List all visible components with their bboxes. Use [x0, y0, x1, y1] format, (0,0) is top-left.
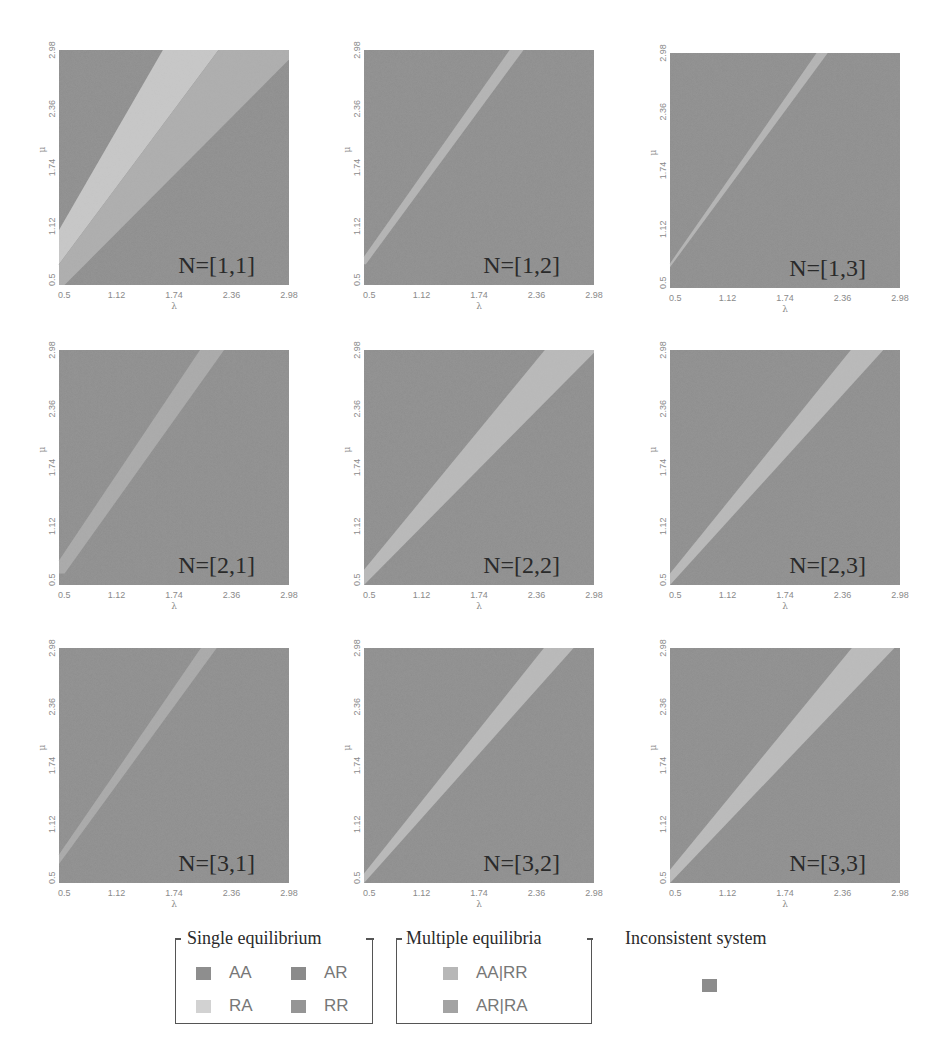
x-tick-label: 0.5: [363, 888, 376, 898]
y-tick-label: 0.5: [658, 573, 668, 586]
x-tick-label: 0.5: [58, 290, 71, 300]
x-tick-label: 1.74: [776, 293, 794, 303]
x-axis-label: λ: [171, 301, 177, 311]
x-tick-label: 1.74: [470, 888, 488, 898]
y-tick-label: 1.12: [47, 217, 57, 235]
legend-label-ar-ra: AR|RA: [476, 996, 528, 1016]
legend-label-ra: RA: [229, 996, 253, 1016]
subplot-title: N=[2,1]: [178, 552, 255, 578]
y-tick-label: 2.36: [352, 400, 362, 418]
x-tick-label: 2.36: [834, 293, 852, 303]
y-axis-label: μ: [342, 146, 352, 152]
legend-item-rr: RR: [291, 996, 349, 1016]
subplot-title: N=[3,1]: [178, 850, 255, 876]
swatch-ar: [291, 967, 306, 980]
y-tick-label: 1.74: [47, 757, 57, 775]
y-tick-label: 0.5: [658, 276, 668, 289]
x-tick-label: 2.98: [280, 888, 298, 898]
x-tick-label: 1.74: [776, 590, 794, 600]
y-tick-label: 0.5: [47, 573, 57, 586]
y-tick-label: 2.98: [352, 639, 362, 657]
y-tick-label: 2.98: [352, 341, 362, 359]
y-tick-label: 2.36: [658, 103, 668, 121]
swatch-inconsistent: [702, 979, 717, 992]
subplot-title: N=[3,3]: [789, 850, 866, 876]
subplot-title: N=[2,2]: [483, 552, 560, 578]
x-tick-label: 2.36: [223, 590, 241, 600]
subplot-4: 0.51.121.742.362.980.51.121.742.362.98λμ…: [19, 340, 319, 630]
y-tick-label: 2.36: [658, 698, 668, 716]
y-tick-label: 2.36: [47, 100, 57, 118]
x-tick-label: 0.5: [363, 290, 376, 300]
subplot-6: 0.51.121.742.362.980.51.121.742.362.98λμ…: [630, 340, 930, 630]
y-tick-label: 0.5: [658, 871, 668, 884]
y-axis-label: μ: [648, 149, 658, 155]
swatch-ar-ra: [443, 1000, 458, 1013]
subplot-title: N=[1,1]: [178, 252, 255, 278]
y-tick-label: 1.74: [658, 757, 668, 775]
x-tick-label: 1.74: [165, 590, 183, 600]
subplot-title: N=[3,2]: [483, 850, 560, 876]
x-tick-label: 0.5: [669, 888, 682, 898]
x-axis-label: λ: [171, 601, 177, 611]
y-tick-label: 1.74: [352, 757, 362, 775]
y-tick-label: 1.12: [352, 517, 362, 535]
x-tick-label: 0.5: [363, 590, 376, 600]
subplot-5: 0.51.121.742.362.980.51.121.742.362.98λμ…: [324, 340, 624, 630]
y-axis-label: μ: [37, 446, 47, 452]
x-tick-label: 0.5: [669, 293, 682, 303]
legend-label-ar: AR: [324, 963, 348, 983]
y-tick-label: 1.12: [352, 815, 362, 833]
y-tick-label: 1.74: [47, 159, 57, 177]
x-axis-label: λ: [476, 301, 482, 311]
x-axis-label: λ: [476, 899, 482, 909]
x-tick-label: 2.98: [891, 590, 909, 600]
swatch-aa-rr: [443, 967, 458, 980]
x-tick-label: 1.12: [413, 590, 431, 600]
y-axis-label: μ: [37, 146, 47, 152]
x-tick-label: 2.98: [891, 888, 909, 898]
y-tick-label: 1.12: [658, 220, 668, 238]
y-tick-label: 1.74: [352, 159, 362, 177]
x-tick-label: 0.5: [58, 590, 71, 600]
x-tick-label: 2.98: [891, 293, 909, 303]
y-tick-label: 0.5: [47, 871, 57, 884]
x-tick-label: 1.12: [719, 888, 737, 898]
swatch-ra: [196, 1000, 211, 1013]
x-tick-label: 1.74: [165, 888, 183, 898]
y-axis-label: μ: [648, 744, 658, 750]
subplot-3: 0.51.121.742.362.980.51.121.742.362.98λμ…: [630, 43, 930, 333]
y-tick-label: 1.12: [658, 517, 668, 535]
swatch-rr: [291, 1000, 306, 1013]
x-axis-label: λ: [782, 601, 788, 611]
subplot-title: N=[1,2]: [483, 252, 560, 278]
y-tick-label: 0.5: [352, 573, 362, 586]
x-tick-label: 0.5: [669, 590, 682, 600]
x-tick-label: 2.36: [834, 590, 852, 600]
subplot-9: 0.51.121.742.362.980.51.121.742.362.98λμ…: [630, 638, 930, 928]
y-axis-label: μ: [342, 446, 352, 452]
x-tick-label: 1.12: [413, 888, 431, 898]
subplot-2: 0.51.121.742.362.980.51.121.742.362.98λμ…: [324, 40, 624, 330]
y-tick-label: 2.98: [352, 41, 362, 59]
legend-item-ar-ra: AR|RA: [443, 996, 528, 1016]
x-tick-label: 1.12: [413, 290, 431, 300]
y-tick-label: 1.74: [47, 459, 57, 477]
x-tick-label: 2.36: [528, 888, 546, 898]
x-tick-label: 1.12: [719, 293, 737, 303]
x-tick-label: 1.12: [719, 590, 737, 600]
x-axis-label: λ: [476, 601, 482, 611]
y-tick-label: 1.12: [352, 217, 362, 235]
x-tick-label: 1.74: [776, 888, 794, 898]
y-tick-label: 2.36: [658, 400, 668, 418]
y-tick-label: 2.36: [352, 100, 362, 118]
y-tick-label: 1.74: [658, 162, 668, 180]
subplot-8: 0.51.121.742.362.980.51.121.742.362.98λμ…: [324, 638, 624, 928]
legend-item-inconsistent: [702, 979, 735, 992]
y-tick-label: 2.98: [658, 44, 668, 62]
legend-single-title: Single equilibrium: [185, 928, 324, 948]
subplot-7: 0.51.121.742.362.980.51.121.742.362.98λμ…: [19, 638, 319, 928]
y-tick-label: 1.74: [352, 459, 362, 477]
swatch-aa: [196, 967, 211, 980]
y-tick-label: 1.12: [658, 815, 668, 833]
